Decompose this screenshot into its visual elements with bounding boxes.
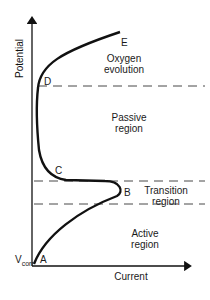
x-axis-label: Current — [106, 271, 156, 282]
point-a: A — [40, 254, 47, 265]
point-e: E — [121, 37, 128, 48]
region-active: Active region — [120, 228, 170, 250]
y-axis-label: Potential — [14, 39, 25, 78]
region-line: Transition — [136, 185, 196, 196]
region-passive: Passive region — [104, 112, 154, 134]
v-corr-main: V — [15, 254, 22, 265]
point-d: D — [44, 76, 51, 87]
point-b: B — [124, 187, 131, 198]
region-line: region — [120, 239, 170, 250]
region-line: evolution — [94, 64, 154, 75]
region-line: region — [136, 196, 196, 207]
v-corr-label: Vcorr — [15, 254, 34, 267]
region-line: Passive — [104, 112, 154, 123]
region-line: Oxygen — [94, 53, 154, 64]
region-transition: Transition region — [136, 185, 196, 207]
v-corr-sub: corr — [22, 260, 34, 267]
region-line: Active — [120, 228, 170, 239]
point-c: C — [55, 165, 62, 176]
region-oxygen-evolution: Oxygen evolution — [94, 53, 154, 75]
region-line: region — [104, 123, 154, 134]
